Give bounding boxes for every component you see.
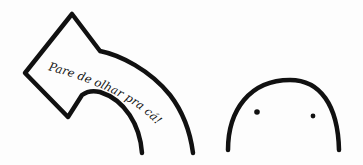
left-eye-icon	[254, 109, 260, 115]
right-eye-icon	[311, 114, 316, 119]
drawing: Pare de olhar pra cá!	[0, 0, 363, 165]
meme-canvas: Pare de olhar pra cá!	[0, 0, 363, 165]
arrow-caption: Pare de olhar pra cá!	[46, 59, 165, 127]
blob-head-icon	[228, 80, 339, 150]
